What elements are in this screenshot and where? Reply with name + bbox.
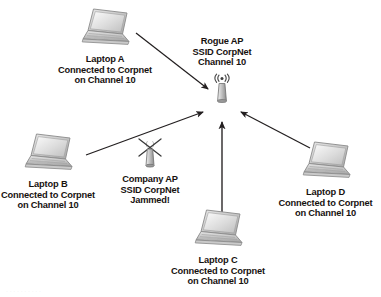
- laptop-c-label-line-2: Connected to Corpnet: [171, 266, 265, 277]
- laptop-icon: [18, 131, 78, 181]
- laptop-b-label-line-3: on Channel 10: [1, 200, 95, 211]
- company-ap-label-line-2: SSID CorpNet: [121, 185, 180, 196]
- laptop-icon: [188, 207, 248, 257]
- laptop-b-label-line-1: Laptop B: [1, 179, 95, 190]
- laptop-c-label-line-3: on Channel 10: [171, 276, 265, 287]
- laptop-d-label-line-1: Laptop D: [278, 187, 372, 198]
- laptop-d-label-line-2: Connected to Corpnet: [278, 198, 372, 209]
- company-ap-status: Jammed!: [121, 195, 180, 206]
- laptop-a-label-line-2: Connected to Corpnet: [58, 65, 152, 76]
- rogue-ap-label-line-3: Channel 10: [193, 57, 252, 68]
- laptop-icon: [75, 6, 135, 56]
- faint-caption-sliver: · · · · · · · · · ·: [6, 288, 136, 294]
- laptop-a-label: Laptop A Connected to Corpnet on Channel…: [58, 54, 152, 86]
- access-point-icon: [206, 72, 238, 110]
- laptop-c-label: Laptop C Connected to Corpnet on Channel…: [171, 255, 265, 287]
- rogue-ap-label-line-1: Rogue AP: [193, 36, 252, 47]
- laptop-d-label-line-3: on Channel 10: [278, 208, 372, 219]
- rogue-ap-label-line-2: SSID CorpNet: [193, 47, 252, 58]
- rogue-ap-label: Rogue AP SSID CorpNet Channel 10: [193, 36, 252, 68]
- laptop-b-label: Laptop B Connected to Corpnet on Channel…: [1, 179, 95, 211]
- laptop-a-label-line-3: on Channel 10: [58, 75, 152, 86]
- laptop-a-label-line-1: Laptop A: [58, 54, 152, 65]
- laptop-d-label: Laptop D Connected to Corpnet on Channel…: [278, 187, 372, 219]
- network-diagram-canvas: Rogue AP SSID CorpNet Channel 10: [0, 0, 381, 297]
- access-point-jammed-icon: [132, 136, 168, 176]
- laptop-b-label-line-2: Connected to Corpnet: [1, 190, 95, 201]
- company-ap-label-line-1: Company AP: [121, 174, 180, 185]
- company-ap-label: Company AP SSID CorpNet Jammed!: [121, 174, 180, 206]
- laptop-icon: [296, 139, 356, 189]
- laptop-c-label-line-1: Laptop C: [171, 255, 265, 266]
